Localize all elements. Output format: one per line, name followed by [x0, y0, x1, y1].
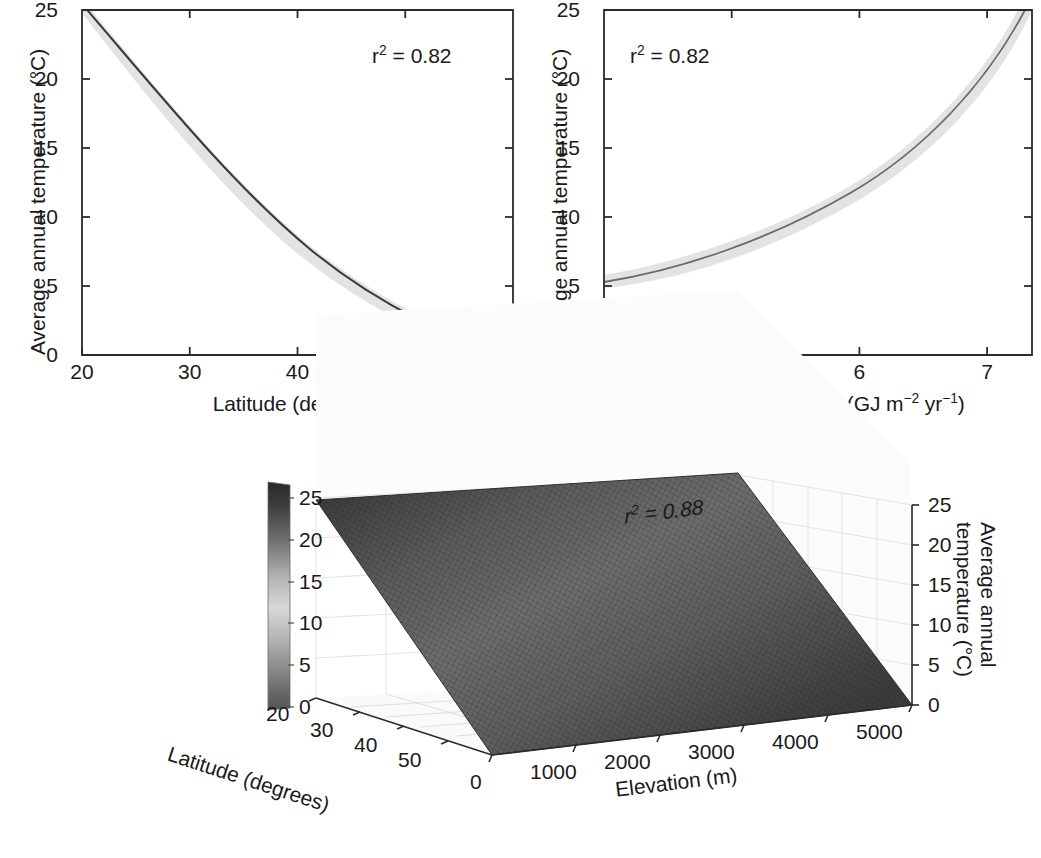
x-axis-top-ticks-b [732, 10, 987, 18]
latitude-tick-30: 30 [310, 718, 333, 742]
r-symbol-b: r [630, 44, 637, 67]
elevation-tick-5000: 5000 [856, 720, 903, 744]
temperature-tick-25: 25 [928, 493, 951, 517]
colorbar-tick-25: 25 [299, 486, 322, 510]
x-tick-label-a-40: 40 [286, 360, 309, 384]
colorbar-tick-0: 0 [299, 695, 311, 719]
latitude-tick-20: 20 [266, 702, 289, 726]
r-symbol-a: r [372, 44, 379, 67]
x-axis-title-b-sup2: −1 [942, 390, 958, 406]
x-axis-title-b-sup1: −2 [904, 390, 920, 406]
y-tick-label-a-25: 25 [35, 0, 58, 22]
r-value-b: = 0.82 [645, 44, 710, 67]
colorbar [268, 482, 290, 710]
r-exponent-b: 2 [637, 42, 645, 58]
panel-c-canvas [0, 430, 1041, 858]
y-axis-right-ticks-a [505, 79, 513, 286]
elevation-tick-3000: 3000 [688, 740, 735, 764]
r-squared-annotation-a: r2 = 0.82 [372, 44, 452, 68]
temperature-axis-title-line1: Average annual [976, 522, 1000, 667]
elevation-tick-1000: 1000 [530, 760, 577, 784]
temperature-tick-15: 15 [928, 573, 951, 597]
x-tick-label-b-7: 7 [981, 360, 993, 384]
x-axis-top-ticks-a [190, 10, 406, 18]
back-wall-left [316, 290, 738, 500]
y-axis-ticks-a [82, 10, 90, 355]
temperature-axis-ticks [912, 505, 919, 705]
figure-root: 0 5 10 15 20 25 20 30 40 50 60 Latitude … [0, 0, 1041, 858]
x-tick-label-b-6: 6 [854, 360, 866, 384]
y-tick-label-b-25: 25 [557, 0, 580, 22]
colorbar-tick-15: 15 [299, 570, 322, 594]
x-axis-title-b-end: ) [958, 392, 965, 415]
latitude-tick-40: 40 [354, 733, 377, 757]
colorbar-tick-20: 20 [299, 528, 322, 552]
y-axis-right-ticks-b [1024, 79, 1032, 286]
elevation-tick-0: 0 [470, 770, 482, 794]
r-exponent-a: 2 [379, 42, 387, 58]
latitude-tick-50: 50 [398, 748, 421, 772]
y-axis-title-a: Average annual temperature (°C) [26, 49, 50, 355]
temperature-tick-0: 0 [928, 693, 940, 717]
elevation-tick-4000: 4000 [772, 730, 819, 754]
panel-c: 0 5 10 15 20 25 20 30 40 50 0 1000 2000 … [0, 430, 1041, 858]
colorbar-tick-5: 5 [299, 653, 311, 677]
temperature-tick-10: 10 [928, 613, 951, 637]
temperature-tick-5: 5 [928, 653, 940, 677]
x-tick-label-a-20: 20 [70, 360, 93, 384]
elevation-tick-2000: 2000 [604, 750, 651, 774]
r-value-a: = 0.82 [387, 44, 452, 67]
colorbar-tick-10: 10 [299, 611, 322, 635]
temperature-axis-title-line2: temperature (°C) [952, 522, 976, 677]
x-axis-title-b-mid: yr [919, 392, 942, 415]
r-squared-annotation-b: r2 = 0.82 [630, 44, 710, 68]
x-tick-label-a-30: 30 [178, 360, 201, 384]
temperature-tick-20: 20 [928, 533, 951, 557]
